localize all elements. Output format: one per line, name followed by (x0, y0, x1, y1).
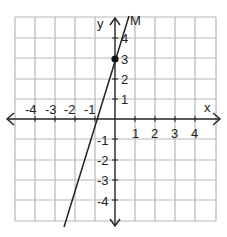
x-axis (7, 113, 220, 125)
svg-text:2: 2 (151, 126, 158, 141)
svg-text:-2: -2 (97, 153, 109, 168)
svg-text:-4: -4 (25, 102, 37, 117)
y-axis-label: y (97, 16, 104, 31)
svg-text:-1: -1 (97, 133, 109, 148)
svg-text:-3: -3 (97, 173, 109, 188)
svg-text:3: 3 (171, 126, 178, 141)
svg-text:1: 1 (121, 92, 128, 107)
svg-text:2: 2 (121, 72, 128, 87)
x-axis-label: x (204, 100, 211, 115)
svg-text:-3: -3 (45, 102, 57, 117)
svg-text:-1: -1 (84, 102, 96, 117)
svg-text:1: 1 (132, 126, 139, 141)
svg-text:4: 4 (191, 126, 198, 141)
svg-text:-4: -4 (97, 194, 109, 209)
svg-text:4: 4 (121, 31, 128, 46)
coordinate-plane: y M x -4 -3 -2 -1 1 2 3 4 4 3 2 1 -1 -2 … (0, 0, 227, 237)
point-y-intercept (111, 55, 118, 62)
svg-text:-2: -2 (64, 102, 76, 117)
line-label-m: M (130, 13, 141, 28)
svg-text:3: 3 (121, 52, 128, 67)
x-tick-labels: -4 -3 -2 -1 1 2 3 4 (25, 102, 198, 141)
